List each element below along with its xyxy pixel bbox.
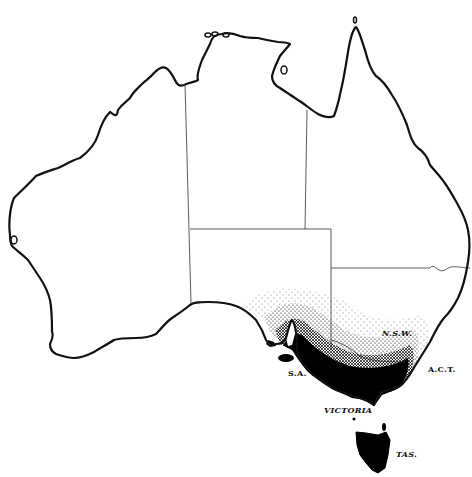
border-nt-qld [305, 110, 307, 229]
groote-eylandt [281, 66, 287, 74]
shark-bay-island [11, 236, 17, 244]
label-act: A.C.T. [428, 364, 456, 374]
label-victoria: VICTORIA [324, 405, 372, 415]
label-nsw: N.S.W. [382, 328, 412, 338]
flinders-island [382, 423, 386, 431]
kangaroo-island [278, 354, 294, 362]
border-wa [185, 84, 191, 304]
label-tas: TAS. [396, 449, 417, 459]
torres-strait-island [354, 17, 357, 23]
label-sa: S.A. [288, 368, 306, 378]
map-graphic [0, 0, 472, 477]
australia-distribution-map: N.S.W. S.A. A.C.T. VICTORIA TAS. [0, 0, 472, 477]
king-island [353, 418, 356, 421]
melville-island [205, 33, 211, 37]
croker-island [223, 33, 229, 37]
tasmania [356, 432, 390, 473]
border-qld-nsw [331, 266, 470, 271]
distribution-shading [240, 289, 428, 405]
